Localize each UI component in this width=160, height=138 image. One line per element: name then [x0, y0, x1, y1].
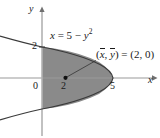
x-tick-label-2: 2	[61, 81, 66, 91]
origin-label: 0	[33, 81, 38, 91]
centroid-value: ) = (2, 0)	[115, 48, 154, 60]
centroid-label: (x, y) = (2, 0)	[96, 49, 154, 60]
y-axis-arrowhead	[39, 7, 44, 13]
x-tick-label-5: 5	[110, 81, 115, 91]
centroid-xbar: x	[100, 49, 105, 60]
x-axis-arrowhead	[152, 75, 158, 80]
x-axis-label: x	[148, 75, 152, 85]
y-axis-label: y	[29, 4, 33, 14]
y-tick-label-2: 2	[32, 41, 37, 51]
centroid-ybar: y	[110, 49, 115, 60]
curve-equation-label: x = 5 − y2	[50, 30, 92, 41]
curve-equation-eq: = 5 −	[55, 29, 84, 41]
centroid-region-figure	[0, 0, 160, 138]
curve-equation-exponent: 2	[89, 27, 93, 36]
